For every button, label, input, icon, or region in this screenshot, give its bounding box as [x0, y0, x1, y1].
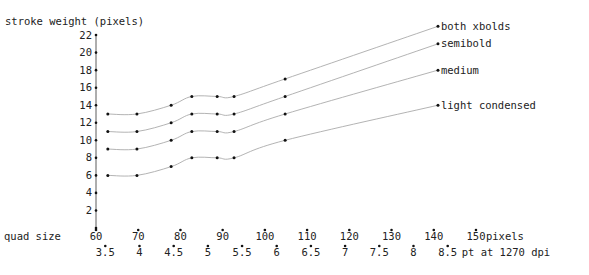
y-axis-title: stroke weight (pixels)	[5, 15, 144, 27]
x-tick-label: 140	[424, 230, 443, 242]
x2-tick-label: 4.5	[164, 246, 183, 258]
y-tick-dot	[95, 69, 98, 72]
data-point	[233, 95, 236, 98]
y-tick-dot	[95, 209, 98, 212]
y-tick-dot	[95, 139, 98, 142]
y-tick-label: 12	[79, 116, 92, 128]
x-axis-title: quad size	[4, 230, 61, 242]
x2-tick-label: 7.5	[370, 246, 389, 258]
x-tick-label: 90	[216, 230, 229, 242]
y-tick-dot	[95, 51, 98, 54]
series-lines: both xboldssemiboldmediumlight condensed	[106, 20, 535, 177]
y-tick-label: 10	[79, 134, 92, 146]
data-point	[216, 156, 219, 159]
data-point	[190, 130, 193, 133]
y-axis-ticks: 246810121416182022	[79, 29, 97, 230]
data-point	[216, 95, 219, 98]
data-point	[106, 148, 109, 151]
data-point	[170, 139, 173, 142]
x2-axis-unit: pt at 1270 dpi	[462, 246, 551, 258]
data-point	[135, 112, 138, 115]
data-point	[284, 95, 287, 98]
data-point	[135, 130, 138, 133]
x-tick-label: 80	[174, 230, 187, 242]
y-tick-label: 18	[79, 64, 92, 76]
data-point	[216, 130, 219, 133]
data-point	[170, 121, 173, 124]
data-point	[436, 25, 439, 28]
x-axis-unit: pixels	[486, 230, 524, 242]
y-tick-label: 22	[79, 29, 92, 41]
data-point	[170, 104, 173, 107]
data-point	[190, 95, 193, 98]
y-tick-dot	[95, 174, 98, 177]
x2-tick-label: 8	[410, 246, 416, 258]
data-point	[190, 156, 193, 159]
y-tick-dot	[95, 157, 98, 160]
stroke-weight-chart: stroke weight (pixels) 24681012141618202…	[0, 0, 589, 275]
y-tick-label: 14	[79, 99, 92, 111]
x2-tick-label: 4	[136, 246, 142, 258]
x2-tick-label: 6	[274, 246, 280, 258]
y-tick-dot	[95, 34, 98, 37]
series-label: light condensed	[441, 99, 536, 111]
series-light-condensed: light condensed	[106, 99, 535, 177]
data-point	[284, 139, 287, 142]
data-point	[233, 130, 236, 133]
data-point	[284, 112, 287, 115]
data-point	[436, 69, 439, 72]
y-tick-label: 4	[86, 186, 92, 198]
x2-tick-label: 6.5	[301, 246, 320, 258]
x-tick-label: 70	[132, 230, 145, 242]
data-point	[106, 130, 109, 133]
data-point	[216, 112, 219, 115]
y-tick-dot	[95, 104, 98, 107]
x2-tick-label: 5	[205, 246, 211, 258]
y-tick-label: 6	[86, 169, 92, 181]
x2-tick-label: 7	[342, 246, 348, 258]
y-tick-label: 8	[86, 151, 92, 163]
data-point	[106, 174, 109, 177]
y-tick-dot	[95, 121, 98, 124]
y-tick-label: 16	[79, 81, 92, 93]
x2-axis-ticks: 3.544.555.566.577.588.5	[96, 245, 457, 258]
series-label: semibold	[441, 37, 492, 49]
y-tick-label: 20	[79, 46, 92, 58]
x-tick-label: 110	[298, 230, 317, 242]
x-tick-label: 60	[90, 230, 103, 242]
data-point	[135, 148, 138, 151]
x-axis-ticks: 60708090100110120130140150	[90, 229, 486, 242]
y-tick-dot	[95, 192, 98, 195]
series-semibold: semibold	[106, 37, 491, 133]
data-point	[170, 165, 173, 168]
data-point	[436, 104, 439, 107]
data-point	[284, 77, 287, 80]
data-point	[233, 112, 236, 115]
x-tick-label: 120	[340, 230, 359, 242]
data-point	[436, 42, 439, 45]
y-tick-dot	[95, 86, 98, 89]
x-tick-label: 150	[466, 230, 485, 242]
y-tick-label: 2	[86, 204, 92, 216]
x2-tick-label: 8.5	[438, 246, 457, 258]
data-point	[233, 156, 236, 159]
x2-tick-label: 3.5	[96, 246, 115, 258]
series-label: both xbolds	[441, 20, 511, 32]
series-label: medium	[441, 64, 479, 76]
x-tick-label: 100	[255, 230, 274, 242]
x2-tick-label: 5.5	[233, 246, 252, 258]
data-point	[190, 112, 193, 115]
data-point	[135, 174, 138, 177]
x-tick-label: 130	[382, 230, 401, 242]
data-point	[106, 112, 109, 115]
